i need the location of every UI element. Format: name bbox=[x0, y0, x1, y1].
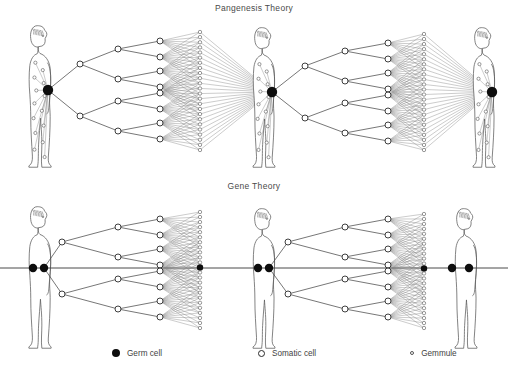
gemmule bbox=[198, 61, 201, 64]
gemmule bbox=[256, 117, 259, 120]
gemmule bbox=[422, 47, 425, 50]
somatic-cell bbox=[59, 291, 65, 297]
gemmule bbox=[422, 282, 425, 285]
gemmule-icon bbox=[410, 351, 414, 355]
connector-line bbox=[118, 49, 160, 57]
gemmule bbox=[198, 66, 201, 69]
somatic-cell bbox=[385, 56, 391, 62]
somatic-cell bbox=[77, 61, 83, 67]
gemmule-link bbox=[160, 93, 200, 94]
somatic-cell bbox=[157, 68, 163, 74]
gemmule bbox=[265, 70, 268, 73]
gemmule-link bbox=[388, 39, 424, 43]
gemmule bbox=[198, 35, 201, 38]
gemmule bbox=[198, 102, 201, 105]
germ-cell bbox=[487, 87, 497, 97]
connector-line bbox=[118, 41, 160, 49]
somatic-cell bbox=[385, 138, 391, 144]
gemmule-link bbox=[388, 49, 424, 59]
gemmule bbox=[477, 103, 480, 106]
connector-line bbox=[62, 227, 118, 242]
gemmule bbox=[477, 77, 480, 80]
connector-line bbox=[80, 101, 118, 116]
somatic-cell-icon bbox=[258, 350, 265, 357]
somatic-cell bbox=[115, 46, 121, 52]
somatic-cell bbox=[157, 54, 163, 60]
connector-line bbox=[118, 257, 160, 265]
germ-cell bbox=[43, 85, 53, 95]
somatic-cell bbox=[342, 78, 348, 84]
connector-line bbox=[80, 116, 118, 131]
somatic-cell bbox=[157, 120, 163, 126]
gemmule-link bbox=[388, 141, 424, 150]
gemmule bbox=[198, 215, 201, 218]
gemmule bbox=[477, 148, 480, 151]
gemmule bbox=[422, 227, 425, 230]
gemmule bbox=[422, 311, 425, 314]
germ-cell bbox=[465, 264, 473, 272]
somatic-cell bbox=[342, 130, 348, 136]
gemmule bbox=[40, 109, 43, 112]
connector-line bbox=[272, 66, 305, 92]
gemmule bbox=[198, 210, 201, 213]
connector-line bbox=[118, 219, 160, 227]
gemmule bbox=[422, 113, 425, 116]
legend-label-germ-cell: Germ cell bbox=[127, 349, 162, 358]
connector-line bbox=[48, 64, 80, 90]
germ-cell bbox=[265, 264, 273, 272]
gemmule bbox=[198, 71, 201, 74]
somatic-cell bbox=[157, 268, 163, 274]
gemmule bbox=[486, 83, 489, 86]
connector-line bbox=[62, 294, 118, 309]
gemmule bbox=[422, 68, 425, 71]
gemmule bbox=[198, 87, 201, 90]
gemmule bbox=[198, 326, 201, 329]
gemmule-link bbox=[388, 283, 424, 287]
connector-line bbox=[345, 219, 388, 227]
connector-line bbox=[345, 43, 388, 51]
germ-cell bbox=[40, 264, 48, 272]
panel-gene bbox=[0, 207, 508, 349]
gemmule bbox=[422, 297, 425, 300]
gemmule bbox=[422, 316, 425, 319]
connector-line bbox=[345, 227, 388, 235]
gemmule bbox=[33, 148, 36, 151]
connector-line bbox=[62, 279, 118, 294]
gemmule bbox=[198, 56, 201, 59]
somatic-cell bbox=[115, 76, 121, 82]
gemmule bbox=[198, 321, 201, 324]
gemmule-link bbox=[160, 317, 200, 328]
connector-line bbox=[305, 118, 345, 133]
gemmule bbox=[33, 102, 36, 105]
legend-item-germ-cell: Germ cell bbox=[112, 349, 162, 358]
gemmule bbox=[198, 316, 201, 319]
somatic-cell bbox=[115, 306, 121, 312]
connector-line bbox=[345, 271, 388, 279]
somatic-cell bbox=[385, 298, 391, 304]
gemmule bbox=[257, 77, 260, 80]
connector-line bbox=[118, 93, 160, 101]
connector-line bbox=[345, 279, 388, 287]
gemmule bbox=[198, 246, 201, 249]
figure-body bbox=[253, 49, 275, 168]
connector-line bbox=[288, 227, 345, 242]
somatic-cell bbox=[115, 276, 121, 282]
gemmule bbox=[476, 117, 479, 120]
gemmule bbox=[422, 32, 425, 35]
figure-body bbox=[253, 230, 275, 349]
figure-body bbox=[455, 230, 477, 349]
gemmule bbox=[422, 73, 425, 76]
gemmule bbox=[422, 88, 425, 91]
somatic-cell bbox=[157, 246, 163, 252]
gemmule bbox=[422, 326, 425, 329]
gemmule bbox=[422, 133, 425, 136]
gemmule bbox=[422, 222, 425, 225]
connector-line bbox=[345, 125, 388, 133]
gemmule bbox=[198, 133, 201, 136]
gemmule bbox=[478, 63, 481, 66]
gemmule-link bbox=[388, 73, 424, 84]
gemmule bbox=[422, 277, 425, 280]
gemmule bbox=[422, 103, 425, 106]
somatic-cell bbox=[385, 122, 391, 128]
gemmule-link bbox=[160, 301, 200, 318]
